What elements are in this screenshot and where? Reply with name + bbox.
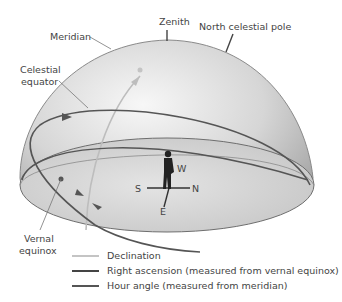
compass-west-label: W xyxy=(177,163,186,174)
hour-angle-swatch xyxy=(72,285,99,287)
north-celestial-pole-label: North celestial pole xyxy=(199,21,291,32)
legend-item-declination: Declination xyxy=(72,249,342,263)
vernal-equinox-label-1: Vernal xyxy=(24,233,54,244)
celestial-equator-label-1: Celestial xyxy=(20,64,61,75)
right-ascension-swatch xyxy=(72,270,99,272)
legend-label: Declination xyxy=(107,249,161,262)
meridian-label: Meridian xyxy=(50,31,91,42)
compass-south-label: S xyxy=(135,183,141,194)
compass-east-label: E xyxy=(160,206,166,217)
legend-label: Right ascension (measured from vernal eq… xyxy=(107,264,339,277)
legend-item-hour-angle: Hour angle (measured from meridian) xyxy=(72,279,342,293)
compass-north-label: N xyxy=(192,183,199,194)
zenith-label: Zenith xyxy=(159,16,190,27)
declination-swatch xyxy=(72,255,99,257)
vernal-equinox-label-2: equinox xyxy=(19,245,57,256)
celestial-equator-label-2: equator xyxy=(21,76,58,87)
legend-item-right-ascension: Right ascension (measured from vernal eq… xyxy=(72,264,342,278)
legend-label: Hour angle (measured from meridian) xyxy=(107,279,287,292)
